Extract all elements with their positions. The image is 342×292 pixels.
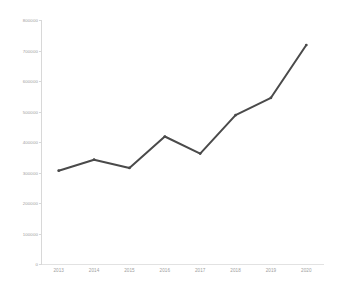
data-point-marker (128, 167, 131, 170)
line-series-markers (57, 44, 307, 172)
line-series-path (59, 45, 307, 171)
chart-figure: 0100000200000300000400000500000600000700… (0, 0, 342, 292)
data-point-marker (93, 158, 96, 161)
data-point-marker (57, 169, 60, 172)
data-point-marker (199, 152, 202, 155)
data-point-marker (270, 96, 273, 99)
line-series-svg (0, 0, 342, 292)
data-point-marker (163, 135, 166, 138)
data-point-marker (234, 114, 237, 117)
data-point-marker (305, 44, 308, 47)
